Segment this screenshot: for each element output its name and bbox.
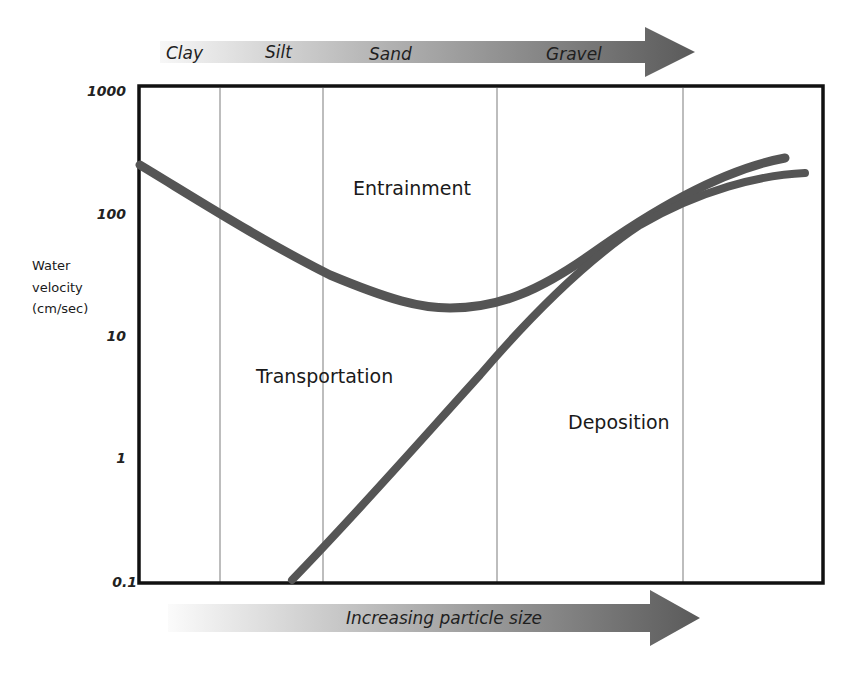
class-label-silt: Silt — [265, 42, 293, 62]
particle-size-arrow: Increasing particle size — [168, 590, 700, 646]
hjulstrom-chart: Clay Silt Sand Gravel 1000 100 10 1 0.1 … — [0, 0, 861, 682]
y-tick-100: 100 — [97, 206, 126, 222]
y-tick-1000: 1000 — [87, 83, 126, 99]
y-label-line-1: Water — [32, 258, 71, 273]
region-label-transportation: Transportation — [255, 365, 393, 387]
class-label-gravel: Gravel — [546, 44, 602, 64]
particle-class-arrow: Clay Silt Sand Gravel — [160, 27, 695, 77]
class-label-clay: Clay — [166, 43, 204, 63]
region-label-deposition: Deposition — [568, 411, 670, 433]
y-label-line-3: (cm/sec) — [32, 301, 88, 316]
y-axis-label: Water velocity (cm/sec) — [32, 258, 88, 316]
x-axis-label: Increasing particle size — [346, 608, 542, 628]
plot-frame — [139, 86, 823, 583]
top-arrow-shape — [160, 27, 695, 77]
y-axis-ticks: 1000 100 10 1 0.1 — [87, 83, 137, 590]
y-tick-10: 10 — [107, 328, 127, 344]
region-label-entrainment: Entrainment — [353, 177, 471, 199]
y-tick-0-1: 0.1 — [112, 574, 137, 590]
y-label-line-2: velocity — [32, 280, 83, 295]
y-tick-1: 1 — [116, 450, 126, 466]
gridlines — [220, 88, 683, 582]
class-label-sand: Sand — [369, 44, 412, 64]
